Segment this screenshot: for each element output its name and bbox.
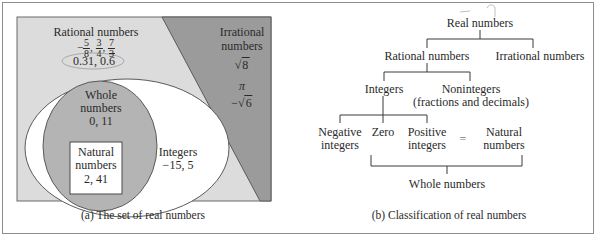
caption-b: (b) Classification of real numbers: [372, 209, 527, 222]
equals-sign: =: [460, 133, 467, 146]
node-natural-2: numbers: [483, 139, 524, 152]
node-whole-numbers: Whole numbers: [409, 178, 485, 191]
node-positive-2: integers: [408, 139, 446, 152]
node-irrational-numbers: Irrational numbers: [496, 50, 585, 63]
node-rational-numbers: Rational numbers: [385, 50, 470, 63]
node-nonintegers-2: (fractions and decimals): [413, 96, 529, 109]
node-negative-2: integers: [321, 139, 359, 152]
node-real-numbers: Real numbers: [447, 17, 513, 30]
tree-connectors: [0, 0, 598, 239]
node-zero: Zero: [372, 126, 395, 139]
node-integers: Integers: [365, 83, 404, 96]
